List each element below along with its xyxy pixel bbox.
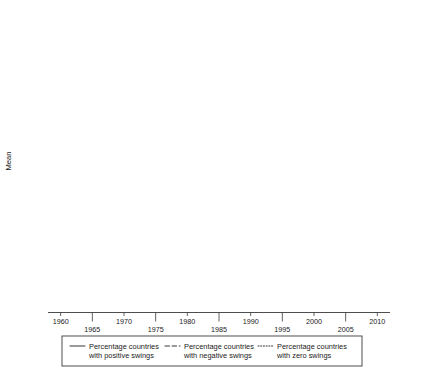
x-tick-label: 1985	[211, 325, 227, 334]
legend-label-zero-line2: with zero swings	[276, 351, 332, 360]
y-axis-title: Mean	[4, 152, 13, 171]
chart-root: 1960196519701975198019851990199520002005…	[0, 0, 426, 371]
legend-label-negative-line2: with negative swings	[183, 351, 252, 360]
x-tick-label: 1990	[243, 317, 259, 326]
x-axis: 1960196519701975198019851990199520002005…	[48, 313, 390, 335]
legend-label-positive-line1: Percentage countries	[89, 342, 159, 351]
legend-label-zero-line1: Percentage countries	[277, 342, 347, 351]
legend-label-positive-line2: with positive swings	[88, 351, 154, 360]
x-tick-label: 1995	[274, 325, 290, 334]
legend-label-negative-line1: Percentage countries	[184, 342, 254, 351]
legend: Percentage countrieswith positive swings…	[62, 336, 362, 366]
x-tick-label: 1970	[116, 317, 132, 326]
x-tick-label: 2005	[338, 325, 354, 334]
x-tick-label: 1980	[179, 317, 195, 326]
x-tick-label: 1965	[84, 325, 100, 334]
x-tick-label: 1960	[53, 317, 69, 326]
x-tick-label: 2010	[369, 317, 385, 326]
x-tick-label: 2000	[306, 317, 322, 326]
x-tick-label: 1975	[148, 325, 164, 334]
multi-panel-line-chart: 1960196519701975198019851990199520002005…	[0, 0, 426, 371]
